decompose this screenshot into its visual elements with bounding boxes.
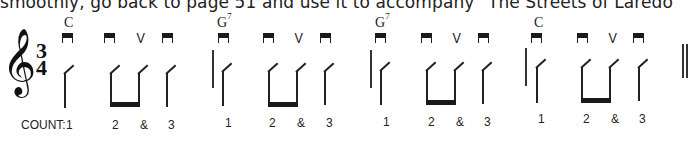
slash-notehead xyxy=(63,65,74,75)
note-stem xyxy=(324,71,326,105)
chord-name: C xyxy=(534,15,543,30)
note-stem xyxy=(581,67,583,99)
barline xyxy=(525,48,527,86)
up-stroke-icon: V xyxy=(452,30,460,46)
down-stroke-icon xyxy=(478,33,489,43)
time-signature-bottom: 4 xyxy=(36,59,47,76)
count-beat: 1 xyxy=(225,116,232,130)
note-stem xyxy=(482,70,484,104)
note-stem xyxy=(296,71,298,103)
time-signature: 3 4 xyxy=(36,42,47,76)
slash-notehead xyxy=(323,63,334,73)
slash-notehead xyxy=(165,65,176,75)
note-stem xyxy=(536,67,538,103)
down-stroke-icon xyxy=(421,33,432,43)
note-stem xyxy=(609,67,611,99)
count-beat: 1 xyxy=(383,115,390,129)
down-stroke-icon xyxy=(104,33,115,43)
down-stroke-icon xyxy=(633,33,644,43)
note-stem xyxy=(380,70,382,105)
count-beat: & xyxy=(140,118,148,132)
note-stem xyxy=(454,70,456,102)
count-label: COUNT: xyxy=(21,118,66,132)
treble-clef-icon: 𝄞 xyxy=(2,32,36,90)
chord-name: C xyxy=(64,15,73,30)
count-beat: 2 xyxy=(269,116,276,130)
final-barline-left xyxy=(682,44,684,78)
slash-notehead xyxy=(379,62,390,72)
slash-notehead xyxy=(453,62,464,72)
count-beat: 2 xyxy=(583,112,590,126)
eighth-beam xyxy=(268,102,298,107)
chord-symbol: G7 xyxy=(375,13,390,31)
chord-symbol: G7 xyxy=(217,13,232,31)
count-beat: & xyxy=(456,115,464,129)
slash-notehead xyxy=(137,65,148,75)
note-stem xyxy=(166,73,168,107)
slash-notehead xyxy=(109,65,120,75)
count-beat: 2 xyxy=(428,115,435,129)
chord-symbol: C xyxy=(64,13,73,31)
down-stroke-icon xyxy=(375,33,386,43)
eighth-beam xyxy=(110,102,140,107)
slash-notehead xyxy=(637,59,648,69)
note-stem xyxy=(638,67,640,101)
slash-notehead xyxy=(535,59,546,69)
slash-notehead xyxy=(481,62,492,72)
down-stroke-icon xyxy=(218,33,229,43)
slash-notehead xyxy=(608,59,619,69)
slash-notehead xyxy=(267,63,278,73)
eighth-beam xyxy=(581,98,611,103)
count-beat: 1 xyxy=(538,112,545,126)
count-beat: 2 xyxy=(112,118,119,132)
chord-name: G xyxy=(217,15,227,30)
count-beat: & xyxy=(611,112,619,126)
note-stem xyxy=(138,73,140,103)
count-beat: & xyxy=(297,116,305,130)
down-stroke-icon xyxy=(320,33,331,43)
chord-extension: 7 xyxy=(385,11,390,21)
count-beat: 3 xyxy=(484,115,491,129)
down-stroke-icon xyxy=(577,33,588,43)
count-beat: 3 xyxy=(326,116,333,130)
down-stroke-icon xyxy=(531,33,542,43)
count-beat: 3 xyxy=(639,112,646,126)
barline xyxy=(370,50,372,88)
up-stroke-icon: V xyxy=(608,30,616,46)
count-beat: 3 xyxy=(168,118,175,132)
chord-extension: 7 xyxy=(227,11,232,21)
barline xyxy=(212,50,214,88)
down-stroke-icon xyxy=(162,33,173,43)
up-stroke-icon: V xyxy=(136,30,144,46)
slash-notehead xyxy=(221,63,232,73)
note-stem xyxy=(222,71,224,106)
note-stem xyxy=(110,73,112,103)
slash-notehead xyxy=(425,62,436,72)
up-stroke-icon: V xyxy=(294,30,302,46)
note-stem xyxy=(268,71,270,103)
slash-notehead xyxy=(295,63,306,73)
intro-text: smoothly, go back to page 51 and use it … xyxy=(0,0,681,12)
eighth-beam xyxy=(426,100,456,105)
chord-name: G xyxy=(375,15,385,30)
final-barline-right xyxy=(686,44,688,78)
note-stem xyxy=(64,73,66,108)
down-stroke-icon xyxy=(62,33,73,43)
count-beat: 1 xyxy=(66,118,73,132)
note-stem xyxy=(426,70,428,102)
down-stroke-icon xyxy=(263,33,274,43)
chord-symbol: C xyxy=(534,13,543,31)
slash-notehead xyxy=(580,59,591,69)
